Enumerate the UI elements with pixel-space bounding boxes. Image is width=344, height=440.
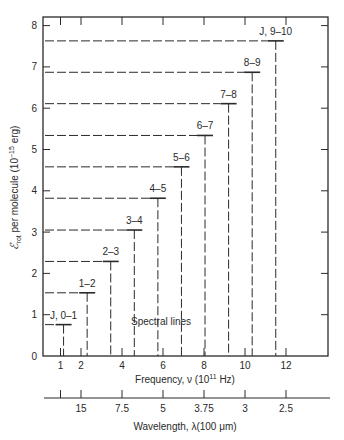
y-tick-label: 4	[31, 185, 37, 196]
x-tick-label: 10	[239, 360, 251, 371]
y-tick-label: 0	[31, 351, 37, 362]
plot-frame	[43, 17, 328, 356]
wavelength-tick-label: 7.5	[115, 403, 129, 414]
x-tick-label: 2	[78, 360, 84, 371]
rotational-spectrum-chart: 012345678 124681012 157.553.7532.5 J, 0–…	[0, 0, 344, 440]
transition-label: 5–6	[173, 152, 190, 163]
x-tick-label: 8	[201, 360, 207, 371]
transition-label: 8–9	[244, 57, 261, 68]
transition-label: J, 0–1	[50, 310, 78, 321]
wavelength-tick-label: 3	[242, 403, 248, 414]
spectral-line: J, 9–10	[45, 26, 293, 356]
transition-label: 7–8	[220, 89, 237, 100]
wavelength-axis-label: Wavelength, λ(100 μm)	[133, 421, 236, 432]
transition-label: 4–5	[150, 183, 167, 194]
wavelength-tick-label: 2.5	[279, 403, 293, 414]
y-tick-label: 2	[31, 268, 37, 279]
x-tick-label: 6	[160, 360, 166, 371]
spectral-line: 2–3	[45, 246, 120, 356]
spectral-lines-annotation: Spectral lines	[131, 316, 191, 327]
spectral-line: J, 0–1	[45, 310, 78, 356]
x-tick-label: 4	[119, 360, 125, 371]
energy-axis-label: ℰrot per molecule (10−15 erg)	[8, 126, 22, 251]
x-tick-label: 12	[280, 360, 292, 371]
transition-label: 2–3	[102, 246, 119, 257]
frequency-axis-label: Frequency, ν (1011 Hz)	[135, 373, 235, 385]
plot-border	[43, 17, 328, 356]
y-tick-label: 1	[31, 309, 37, 320]
x-tick-label: 1	[58, 360, 64, 371]
y-tick-label: 7	[31, 61, 37, 72]
y-tick-label: 3	[31, 227, 37, 238]
wavelength-tick-label: 15	[75, 403, 87, 414]
wavelength-axis: 157.553.7532.5	[44, 390, 330, 414]
transition-label: 6–7	[197, 120, 214, 131]
transition-label: 3–4	[126, 215, 143, 226]
y-tick-label: 8	[31, 20, 37, 31]
transition-label: J, 9–10	[259, 26, 292, 37]
y-tick-label: 6	[31, 103, 37, 114]
chart-canvas: 012345678 124681012 157.553.7532.5 J, 0–…	[0, 0, 344, 440]
y-tick-label: 5	[31, 144, 37, 155]
wavelength-tick-label: 3.75	[194, 403, 214, 414]
wavelength-tick-label: 5	[160, 403, 166, 414]
energy-level-lines: J, 0–11–22–33–44–55–66–77–88–9J, 9–10	[45, 26, 293, 356]
transition-label: 1–2	[79, 278, 96, 289]
